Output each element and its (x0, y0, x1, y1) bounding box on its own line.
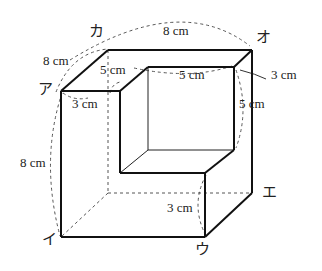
vertex-label-ka: カ (89, 24, 104, 39)
vertex-label-e: エ (262, 185, 277, 200)
dim-label-front-slab: 3 cm (72, 97, 98, 110)
dim-label-notch-width: 5 cm (179, 68, 205, 81)
dim-label-left-height: 8 cm (20, 156, 46, 169)
vertex-label-a: ア (38, 82, 53, 97)
dim-label-bottom-slab: 3 cm (167, 201, 193, 214)
dim-label-top-back: 8 cm (163, 24, 189, 37)
dim-label-top-left: 8 cm (43, 54, 69, 67)
vertex-label-u: ウ (195, 242, 210, 257)
dim-label-right-slab: 3 cm (271, 68, 297, 81)
notch-edges (120, 67, 234, 173)
dim-label-notch-depth: 5 cm (100, 63, 126, 76)
vertex-label-i: イ (42, 232, 57, 247)
vertex-label-o: オ (256, 30, 271, 45)
solid-figure-diagram: カ ア オ イ ウ エ 8 cm 8 cm 5 cm 5 cm 3 cm 3 c… (0, 0, 322, 271)
dimension-arcs (50, 22, 250, 236)
hidden-edges (61, 50, 252, 237)
visible-edges (61, 50, 252, 237)
dim-label-notch-height: 5 cm (239, 97, 265, 110)
